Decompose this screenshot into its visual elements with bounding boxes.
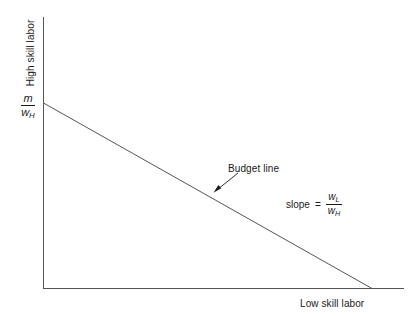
slope-word: slope	[286, 199, 310, 210]
y-intercept-fraction: m wH	[19, 93, 37, 120]
slope-denominator: wH	[326, 205, 342, 217]
slope-denominator-subscript: H	[335, 208, 340, 217]
slope-denominator-base: w	[328, 205, 335, 216]
slope-equals-sign: =	[315, 199, 321, 210]
y-intercept-label: m wH	[14, 93, 42, 120]
slope-numerator: wL	[326, 192, 341, 205]
budget-line-pointer-arrow	[214, 173, 239, 193]
slope-numerator-subscript: L	[336, 195, 340, 204]
slope-numerator-base: w	[328, 191, 335, 202]
slope-fraction: wL wH	[326, 192, 342, 217]
diagram-canvas	[0, 0, 419, 316]
y-intercept-denominator-subscript: H	[29, 111, 35, 120]
budget-line-diagram: High skill labor m wH Budget line slope …	[0, 0, 419, 316]
x-axis-label: Low skill labor	[300, 298, 364, 309]
slope-equation: slope = wL wH	[286, 192, 342, 217]
y-intercept-denominator-base: w	[21, 106, 29, 118]
y-intercept-denominator: wH	[19, 106, 37, 120]
y-axis-label: High skill labor	[25, 20, 36, 87]
budget-line-annotation-label: Budget line	[228, 163, 279, 174]
y-intercept-numerator: m	[21, 93, 34, 106]
